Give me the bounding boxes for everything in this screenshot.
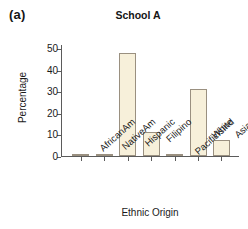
- y-tick-label: 40: [36, 64, 58, 77]
- bar-africanam: [72, 154, 89, 156]
- x-axis-line: [61, 156, 239, 157]
- x-axis-label: Ethnic Origin: [61, 207, 239, 218]
- y-tick-label: 20: [36, 107, 58, 120]
- y-tick-label: 50: [36, 42, 58, 55]
- y-tick-label: 0: [36, 150, 58, 163]
- y-axis-label: Percentage: [17, 53, 28, 143]
- chart-title: School A: [78, 9, 198, 21]
- x-tick-mark: [221, 157, 222, 161]
- x-tick-mark: [128, 157, 129, 161]
- figure-panel: (a) School A Percentage 01020304050 Afri…: [0, 0, 248, 229]
- y-tick-label: 30: [36, 85, 58, 98]
- x-tick-mark: [175, 157, 176, 161]
- y-axis-line: [61, 45, 62, 157]
- x-tick-mark: [198, 157, 199, 161]
- bar-nativeam: [96, 154, 113, 156]
- y-tick-label: 10: [36, 128, 58, 141]
- x-tick-mark: [104, 157, 105, 161]
- x-tick-mark: [151, 157, 152, 161]
- bar-pacificisind: [166, 154, 183, 156]
- panel-label: (a): [9, 7, 26, 22]
- x-tick-mark: [81, 157, 82, 161]
